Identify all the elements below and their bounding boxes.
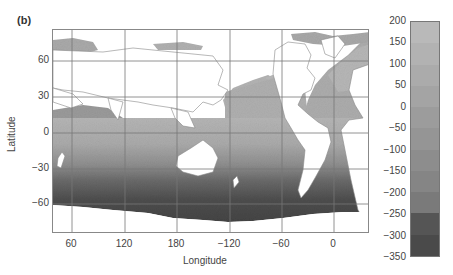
y-tick-neg30: −30 <box>25 162 49 173</box>
colorbar-band <box>411 86 439 107</box>
ocean-map <box>53 30 369 233</box>
x-tick-neg60: −60 <box>261 238 301 249</box>
colorbar-tick: −350 <box>366 251 406 262</box>
x-axis-title: Longitude <box>183 255 227 266</box>
x-tick-180: 180 <box>156 238 196 249</box>
colorbar-tick: 150 <box>366 36 406 47</box>
colorbar-band <box>411 107 439 128</box>
colorbar-band <box>411 65 439 86</box>
colorbar-tick: −50 <box>366 122 406 133</box>
colorbar-tick: −100 <box>366 144 406 155</box>
colorbar-band <box>411 150 439 171</box>
colorbar-tick: 0 <box>366 101 406 112</box>
y-tick-60: 60 <box>25 54 49 65</box>
colorbar-band <box>411 192 439 213</box>
colorbar-tick: −300 <box>366 230 406 241</box>
colorbar-tick: −200 <box>366 187 406 198</box>
colorbar-band <box>411 213 439 234</box>
colorbar-tick: 50 <box>366 79 406 90</box>
colorbar-band <box>411 128 439 149</box>
colorbar-band <box>411 235 439 256</box>
y-tick-0: 0 <box>25 126 49 137</box>
y-axis-title: Latitude <box>6 116 17 152</box>
x-tick-120: 120 <box>104 238 144 249</box>
colorbar-band <box>411 43 439 64</box>
colorbar-tick: 100 <box>366 58 406 69</box>
colorbar-band <box>411 22 439 43</box>
colorbar-tick: 200 <box>366 15 406 26</box>
x-tick-0: 0 <box>313 238 353 249</box>
x-tick-neg120: −120 <box>209 238 249 249</box>
x-tick-60: 60 <box>51 238 91 249</box>
y-tick-30: 30 <box>25 90 49 101</box>
colorbar-tick: −250 <box>366 208 406 219</box>
panel-label: (b) <box>17 14 31 26</box>
map-plot-area <box>52 29 369 233</box>
colorbar-band <box>411 171 439 192</box>
y-tick-neg60: −60 <box>25 197 49 208</box>
colorbar <box>410 21 440 257</box>
colorbar-tick: −150 <box>366 165 406 176</box>
